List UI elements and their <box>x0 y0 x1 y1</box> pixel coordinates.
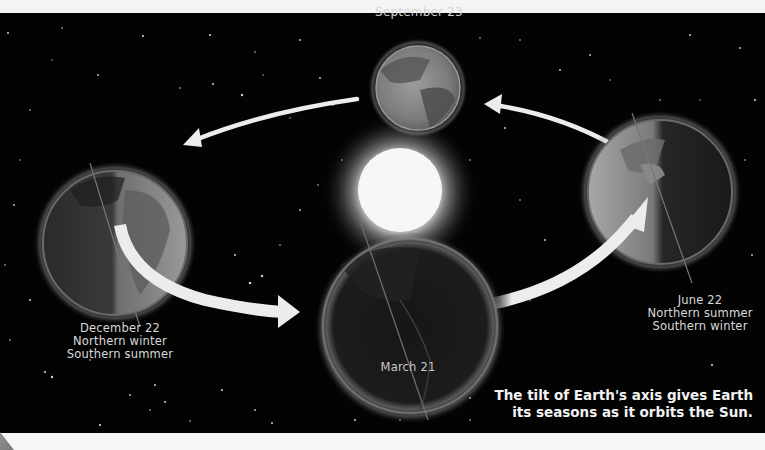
label-september-date: September 23 <box>375 5 463 19</box>
arrowhead-to-september <box>484 94 502 114</box>
label-march: March 21 <box>358 361 458 374</box>
label-march-date: March 21 <box>381 360 436 374</box>
arrowhead-to-december <box>183 128 202 147</box>
label-december: December 22 Northern winter Southern sum… <box>40 322 200 361</box>
label-december-south: Southern summer <box>40 348 200 361</box>
label-june-south: Southern winter <box>620 320 765 333</box>
bottom-border <box>0 433 765 450</box>
caption-line-2: its seasons as it orbits the Sun. <box>494 404 753 421</box>
caption-line-1: The tilt of Earth's axis gives Earth <box>494 387 753 404</box>
label-june: June 22 Northern summer Southern winter <box>620 294 765 333</box>
globe-december <box>33 161 197 327</box>
diagram-stage: September 23 December 22 Northern winter… <box>0 0 765 450</box>
caption: The tilt of Earth's axis gives Earth its… <box>494 387 753 421</box>
globe-september <box>368 38 468 138</box>
label-september: September 23 <box>349 6 489 19</box>
